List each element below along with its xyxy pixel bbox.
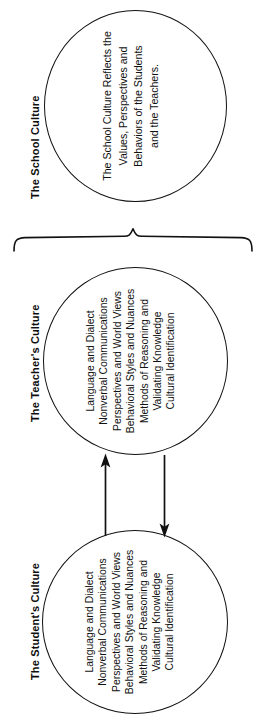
section-label-teacher-culture: The Teacher's Culture [29,305,41,422]
student-culture-line-4: Behavioral Styles and Nuances [123,490,136,724]
teacher-culture-line-2: Nonverbal Communications [97,229,110,493]
student-culture-text: Language and Dialect Nonverbal Communica… [83,490,177,724]
student-culture-line-6: Validating Knowledge [150,490,163,724]
school-culture-line-2: Values, Perspectives and [116,0,132,238]
student-culture-line-2: Nonverbal Communications [96,490,109,724]
school-culture-text: The School Culture Reflects the Values, … [100,0,152,238]
teacher-culture-text: Language and Dialect Nonverbal Communica… [84,229,178,493]
teacher-culture-line-3: Perspectives and World Views [111,229,124,493]
teacher-culture-line-7: Cultural Identification [164,229,177,493]
section-label-student-culture: The Student's Culture [29,563,41,680]
teacher-culture-line-6: Validating Knowledge [151,229,164,493]
school-culture-line-4: and the Teachers. [147,0,163,238]
teacher-culture-line-5: Methods of Reasoning and [138,229,151,493]
teacher-culture-line-4: Behavioral Styles and Nuances [124,229,137,493]
student-culture-line-3: Perspectives and World Views [110,490,123,724]
student-culture-line-5: Methods of Reasoning and [137,490,150,724]
section-label-school-culture: The School Culture [29,95,41,199]
student-culture-line-1: Language and Dialect [83,490,96,724]
teacher-culture-line-1: Language and Dialect [84,229,97,493]
student-culture-line-7: Cultural Identification [163,490,176,724]
school-culture-line-3: Behaviors of the Students [131,0,147,238]
diagram-canvas: The School Culture The School Culture Re… [0,0,264,724]
school-culture-line-1: The School Culture Reflects the [100,0,116,238]
